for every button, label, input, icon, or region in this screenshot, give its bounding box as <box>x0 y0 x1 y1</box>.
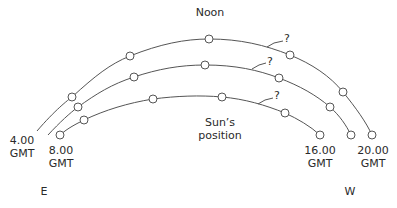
time-label-4-zone: GMT <box>3 147 41 160</box>
unknown-marker-middle: ? <box>267 56 273 68</box>
sun-dot <box>316 131 324 139</box>
time-label-16-time: 16.00 <box>298 144 342 157</box>
sun-position-label: Sun’s position <box>190 116 250 142</box>
sun-dot <box>281 109 289 117</box>
time-label-20-time: 20.00 <box>351 144 395 157</box>
time-label-8-zone: GMT <box>42 157 80 170</box>
leader-line-middle <box>252 63 266 69</box>
sun-dot <box>74 103 82 111</box>
sun-dot <box>56 131 64 139</box>
time-label-8-time: 8.00 <box>42 144 80 157</box>
leader-line-outer <box>267 41 283 47</box>
time-label-4: 4.00 GMT <box>3 134 41 160</box>
sun-dot <box>339 88 347 96</box>
leader-line-inner <box>258 98 273 104</box>
sun-dot <box>126 52 134 60</box>
direction-west: W <box>343 185 357 198</box>
time-label-20-zone: GMT <box>351 157 395 170</box>
direction-east: E <box>38 185 50 198</box>
noon-label: Noon <box>190 6 230 19</box>
sun-dot <box>130 73 138 81</box>
sun-dot <box>218 93 226 101</box>
unknown-marker-inner: ? <box>274 90 280 102</box>
sun-dot <box>275 74 283 82</box>
time-label-4-time: 4.00 <box>3 134 41 147</box>
sun-dot <box>286 51 294 59</box>
sun-dot <box>149 95 157 103</box>
sun-dot <box>347 131 355 139</box>
sun-path-diagram <box>0 0 397 208</box>
sun-dot <box>368 131 376 139</box>
unknown-marker-outer: ? <box>284 33 290 45</box>
sun-position-line2: position <box>190 129 250 142</box>
time-label-16: 16.00 GMT <box>298 144 342 170</box>
time-label-8: 8.00 GMT <box>42 144 80 170</box>
sun-dot <box>205 35 213 43</box>
sun-dot <box>80 116 88 124</box>
sun-dot <box>326 103 334 111</box>
time-label-16-zone: GMT <box>298 157 342 170</box>
sun-dot <box>201 61 209 69</box>
time-label-20: 20.00 GMT <box>351 144 395 170</box>
sun-dot <box>68 93 76 101</box>
sun-position-line1: Sun’s <box>190 116 250 129</box>
